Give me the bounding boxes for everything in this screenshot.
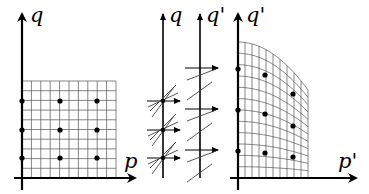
point: [290, 154, 295, 159]
point: [57, 98, 62, 103]
phase-space-diagram: q p q q' q' p': [0, 0, 369, 194]
point: [94, 98, 99, 103]
panel-shear-map: q q': [147, 3, 225, 182]
point: [262, 150, 267, 155]
grid-square: [22, 81, 116, 178]
point: [235, 107, 240, 112]
p-axis-label: p: [124, 149, 137, 173]
point: [94, 127, 99, 132]
q-prime-axis-label: q': [246, 3, 265, 27]
panel-transformed: q' p': [230, 3, 357, 190]
point: [94, 155, 99, 160]
point: [262, 111, 267, 116]
point: [262, 72, 267, 77]
point: [235, 66, 240, 71]
point: [290, 91, 295, 96]
shear-vectors: [147, 68, 218, 182]
point: [235, 148, 240, 153]
p-prime-axis-label: p': [338, 149, 357, 173]
q-prime-label: q': [206, 3, 225, 27]
panel-original: q p: [14, 3, 137, 190]
q-axis-label: q: [30, 3, 43, 27]
grid-warped: [238, 42, 308, 178]
q-label: q: [169, 3, 182, 27]
point: [19, 127, 24, 132]
point: [57, 155, 62, 160]
point: [19, 155, 24, 160]
point: [19, 98, 24, 103]
point: [290, 123, 295, 128]
point: [57, 127, 62, 132]
